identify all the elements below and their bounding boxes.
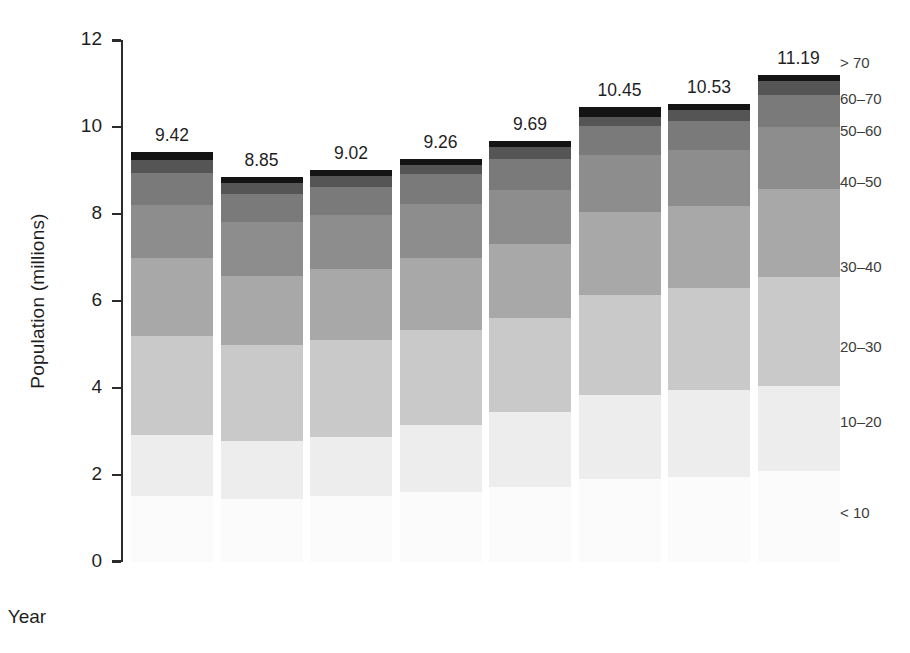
y-axis-tick-label: 10 <box>58 115 102 137</box>
legend-item-label: 20–30 <box>840 338 882 355</box>
bar-segment[interactable] <box>131 258 213 335</box>
bar-segment[interactable] <box>758 81 840 95</box>
stacked-bar[interactable] <box>400 159 482 562</box>
y-axis-tick-mark <box>112 213 121 215</box>
bar-segment[interactable] <box>400 330 482 425</box>
bar-segment[interactable] <box>131 173 213 205</box>
y-axis-title: Population (millions) <box>18 40 58 562</box>
bar-segment[interactable] <box>668 110 750 121</box>
stacked-bar[interactable] <box>310 170 392 562</box>
bar-segment[interactable] <box>758 95 840 126</box>
bar-segment[interactable] <box>579 395 661 479</box>
bar-segment[interactable] <box>221 345 303 441</box>
bar-segment[interactable] <box>400 258 482 330</box>
bar-segment[interactable] <box>579 212 661 296</box>
bar-segment[interactable] <box>131 435 213 496</box>
bar-segment[interactable] <box>579 107 661 116</box>
bar-segment[interactable] <box>579 155 661 212</box>
stacked-bar[interactable] <box>668 104 750 562</box>
legend-item-label: < 10 <box>840 504 870 521</box>
y-axis-tick-mark <box>112 474 121 476</box>
bar-segment[interactable] <box>758 127 840 190</box>
legend-item-label: 60–70 <box>840 90 882 107</box>
y-axis-tick-mark <box>112 561 121 563</box>
legend-item-label: 50–60 <box>840 122 882 139</box>
bar-segment[interactable] <box>489 147 571 159</box>
bar-total-label: 10.53 <box>687 77 731 98</box>
bar-segment[interactable] <box>310 176 392 187</box>
bar-segment[interactable] <box>668 390 750 477</box>
stacked-bar[interactable] <box>489 141 571 563</box>
bar-segment[interactable] <box>131 152 213 160</box>
bar-segment[interactable] <box>758 189 840 277</box>
bar-total-label: 9.02 <box>334 143 368 164</box>
bar-segment[interactable] <box>668 206 750 288</box>
stacked-bar[interactable] <box>579 107 661 562</box>
legend-item-label: 30–40 <box>840 258 882 275</box>
bar-segment[interactable] <box>400 204 482 258</box>
y-axis-tick-mark <box>112 387 121 389</box>
bar-segment[interactable] <box>310 187 392 215</box>
bar-segment[interactable] <box>221 499 303 562</box>
stacked-bar[interactable] <box>758 75 840 562</box>
bar-segment[interactable] <box>310 496 392 562</box>
x-axis-title-text: Year <box>8 606 46 627</box>
bar-segment[interactable] <box>221 222 303 276</box>
bar-segment[interactable] <box>489 159 571 189</box>
stacked-bar[interactable] <box>131 152 213 562</box>
bar-segment[interactable] <box>400 174 482 204</box>
bar-segment[interactable] <box>579 126 661 155</box>
bar-segment[interactable] <box>668 288 750 390</box>
bar-segment[interactable] <box>221 276 303 346</box>
bar-segment[interactable] <box>758 386 840 471</box>
bar-segment[interactable] <box>221 194 303 222</box>
bar-segment[interactable] <box>579 295 661 395</box>
y-axis-tick-label: 2 <box>58 463 102 485</box>
bar-segment[interactable] <box>131 160 213 173</box>
bar-total-label: 9.42 <box>155 125 189 146</box>
bar-segment[interactable] <box>668 477 750 562</box>
x-axis-title: Year <box>0 606 910 628</box>
y-axis-tick-label: 12 <box>58 28 102 50</box>
bar-total-label: 8.85 <box>244 150 278 171</box>
bar-segment[interactable] <box>131 205 213 259</box>
bar-segment[interactable] <box>579 479 661 562</box>
legend-item-label: 40–50 <box>840 173 882 190</box>
bar-segment[interactable] <box>310 437 392 496</box>
bar-segment[interactable] <box>668 121 750 150</box>
bar-segment[interactable] <box>310 340 392 437</box>
bar-total-label: 11.19 <box>777 48 820 69</box>
bar-total-label: 9.26 <box>423 132 457 153</box>
bar-segment[interactable] <box>579 117 661 127</box>
bar-segment[interactable] <box>668 150 750 207</box>
bar-segment[interactable] <box>758 277 840 386</box>
stacked-bar[interactable] <box>221 177 303 562</box>
legend: > 7060–7050–6040–5030–4020–3010–20< 10 <box>840 0 910 653</box>
bar-segment[interactable] <box>221 183 303 194</box>
y-axis-tick-label: 8 <box>58 202 102 224</box>
bar-segment[interactable] <box>400 425 482 492</box>
bar-segment[interactable] <box>131 496 213 562</box>
bar-total-label: 9.69 <box>513 114 547 135</box>
bar-segment[interactable] <box>489 487 571 562</box>
bar-segment[interactable] <box>489 318 571 412</box>
stacked-bar-chart-figure: Population (millions) 024681012 9.422003… <box>0 0 910 653</box>
plot-area: 9.4220038.8520049.0220059.2620069.692007… <box>123 40 835 562</box>
y-axis-tick-label: 0 <box>58 550 102 572</box>
bar-segment[interactable] <box>310 215 392 269</box>
y-axis-tick-label: 6 <box>58 289 102 311</box>
bar-segment[interactable] <box>400 492 482 562</box>
bar-segment[interactable] <box>400 165 482 175</box>
bar-segment[interactable] <box>758 471 840 562</box>
y-axis-tick-mark <box>112 300 121 302</box>
bar-segment[interactable] <box>489 412 571 487</box>
bar-segment[interactable] <box>131 336 213 435</box>
legend-item-label: 10–20 <box>840 413 882 430</box>
y-axis-tick-label: 4 <box>58 376 102 398</box>
bar-segment[interactable] <box>221 441 303 498</box>
legend-item-label: > 70 <box>840 54 870 71</box>
bar-segment[interactable] <box>489 244 571 318</box>
bar-segment[interactable] <box>489 190 571 244</box>
bar-segment[interactable] <box>310 269 392 340</box>
y-axis-tick-mark <box>112 39 121 41</box>
